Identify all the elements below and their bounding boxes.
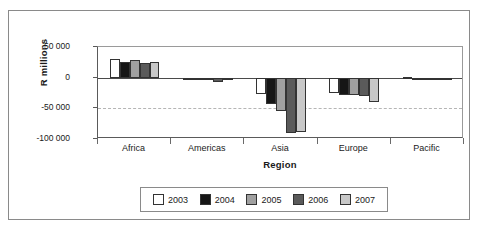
bar-europe-2005 — [349, 78, 359, 96]
bar-europe-2004 — [339, 78, 349, 96]
bar-africa-2006 — [140, 63, 150, 78]
bar-europe-2007 — [369, 78, 379, 102]
legend-label-2004: 2004 — [215, 195, 235, 205]
legend-item-2003: 2003 — [153, 194, 188, 205]
legend-item-2006: 2006 — [293, 194, 328, 205]
bar-pacific-2006 — [432, 78, 442, 80]
bar-asia-2007 — [296, 78, 306, 132]
x-separator-tick — [317, 138, 318, 144]
bar-asia-2004 — [266, 78, 276, 104]
bar-asia-2005 — [276, 78, 286, 111]
chart-legend: 20032004200520062007 — [140, 187, 388, 212]
x-tick-label-africa: Africa — [97, 143, 170, 153]
plot-area — [97, 46, 463, 138]
y-axis-title: R millions — [38, 23, 49, 103]
x-separator-tick — [97, 138, 98, 144]
bar-pacific-2007 — [442, 78, 452, 80]
legend-label-2003: 2003 — [168, 195, 188, 205]
x-separator-tick — [170, 138, 171, 144]
bar-pacific-2003 — [403, 77, 413, 79]
bar-americas-2003 — [183, 78, 193, 80]
x-tick-label-americas: Americas — [170, 143, 243, 153]
legend-label-2006: 2006 — [308, 195, 328, 205]
legend-label-2005: 2005 — [261, 195, 281, 205]
legend-item-2004: 2004 — [200, 194, 235, 205]
bar-africa-2007 — [150, 62, 160, 77]
x-separator-tick — [390, 138, 391, 144]
bar-americas-2004 — [193, 78, 203, 80]
legend-swatch-2004 — [200, 194, 211, 205]
x-axis-title: Region — [97, 159, 463, 170]
bar-asia-2003 — [256, 78, 266, 94]
x-tick-label-asia: Asia — [243, 143, 316, 153]
bar-africa-2005 — [130, 60, 140, 78]
bar-americas-2006 — [213, 78, 223, 82]
x-separator-tick — [243, 138, 244, 144]
bar-africa-2003 — [110, 59, 120, 78]
y-tick-label: 0 — [65, 73, 70, 82]
legend-swatch-2003 — [153, 194, 164, 205]
y-tick-label: -50 000 — [41, 103, 70, 112]
bar-europe-2003 — [329, 78, 339, 93]
legend-swatch-2005 — [246, 194, 257, 205]
x-tick-label-pacific: Pacific — [390, 143, 463, 153]
y-tick-label: 50 000 — [44, 42, 70, 51]
legend-label-2007: 2007 — [355, 195, 375, 205]
legend-item-2007: 2007 — [340, 194, 375, 205]
y-tick-label: -100 000 — [36, 134, 70, 143]
bar-pacific-2004 — [412, 78, 422, 80]
legend-swatch-2006 — [293, 194, 304, 205]
bar-americas-2007 — [223, 78, 233, 80]
bar-pacific-2005 — [422, 78, 432, 80]
x-tick-label-europe: Europe — [317, 143, 390, 153]
figure: R millions 50 0000-50 000-100 000 Africa… — [0, 0, 482, 234]
chart-frame: R millions 50 0000-50 000-100 000 Africa… — [8, 10, 470, 220]
bar-europe-2006 — [359, 78, 369, 96]
legend-item-2005: 2005 — [246, 194, 281, 205]
legend-swatch-2007 — [340, 194, 351, 205]
x-separator-tick — [463, 138, 464, 144]
bar-asia-2006 — [286, 78, 296, 134]
bar-africa-2004 — [120, 62, 130, 78]
bar-americas-2005 — [203, 78, 213, 80]
